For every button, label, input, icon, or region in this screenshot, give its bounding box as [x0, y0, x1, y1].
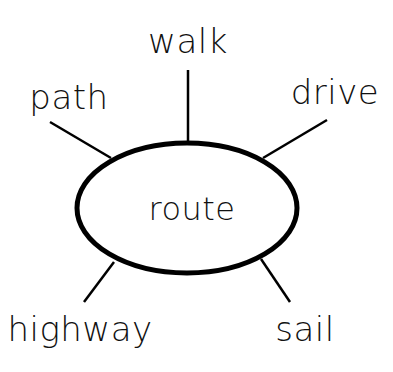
- connector-sail: [261, 259, 290, 302]
- branch-label-drive: drive: [291, 75, 380, 109]
- connector-drive: [263, 120, 327, 158]
- branch-label-path: path: [29, 80, 108, 114]
- connector-path: [50, 122, 111, 158]
- branch-label-sail: sail: [275, 312, 334, 346]
- connector-highway: [84, 262, 114, 302]
- branch-label-highway: highway: [7, 312, 152, 346]
- word-web-diagram: route walk path drive highway sail: [0, 0, 393, 372]
- branch-label-walk: walk: [148, 24, 228, 58]
- center-label: route: [148, 193, 235, 225]
